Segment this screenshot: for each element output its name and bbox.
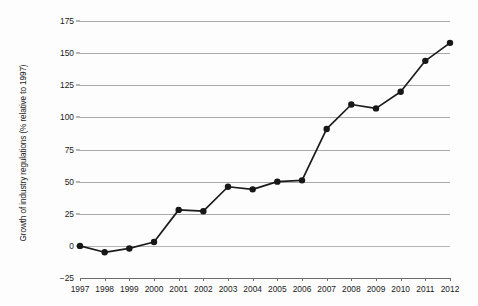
x-tick-label-2007: 2007 — [317, 284, 336, 294]
data-point-2003 — [225, 184, 231, 190]
x-tick-label-2006: 2006 — [293, 284, 312, 294]
x-tick-mark-1997 — [80, 278, 81, 281]
data-point-1997 — [77, 243, 83, 249]
x-tick-mark-2005 — [277, 278, 278, 281]
x-tick-mark-1998 — [105, 278, 106, 281]
x-tick-mark-2010 — [401, 278, 402, 281]
x-tick-label-2010: 2010 — [391, 284, 410, 294]
data-point-1999 — [126, 245, 132, 251]
series-line — [80, 43, 450, 252]
x-tick-mark-2012 — [450, 278, 451, 281]
data-point-2012 — [447, 40, 453, 46]
data-point-2009 — [373, 105, 379, 111]
data-point-2005 — [274, 178, 280, 184]
data-point-2002 — [200, 208, 206, 214]
data-point-2001 — [175, 207, 181, 213]
x-tick-label-2009: 2009 — [367, 284, 386, 294]
x-tick-mark-2004 — [253, 278, 254, 281]
x-tick-label-2005: 2005 — [268, 284, 287, 294]
x-tick-mark-2000 — [154, 278, 155, 281]
data-point-2010 — [397, 88, 403, 94]
data-point-2008 — [348, 101, 354, 107]
x-tick-label-1999: 1999 — [120, 284, 139, 294]
series-layer — [0, 0, 478, 306]
x-tick-mark-2008 — [351, 278, 352, 281]
x-tick-mark-2011 — [425, 278, 426, 281]
x-tick-mark-2002 — [203, 278, 204, 281]
x-tick-label-2000: 2000 — [145, 284, 164, 294]
x-tick-mark-2006 — [302, 278, 303, 281]
x-tick-mark-2009 — [376, 278, 377, 281]
x-tick-mark-2007 — [327, 278, 328, 281]
x-tick-label-2012: 2012 — [441, 284, 460, 294]
line-chart: Growth of industry regulations (% relati… — [0, 0, 478, 306]
data-point-2006 — [299, 177, 305, 183]
data-point-1998 — [101, 249, 107, 255]
data-point-2004 — [249, 186, 255, 192]
x-tick-label-1998: 1998 — [95, 284, 114, 294]
data-point-2011 — [422, 58, 428, 64]
data-point-2007 — [323, 126, 329, 132]
x-tick-label-2011: 2011 — [416, 284, 434, 294]
x-tick-label-2008: 2008 — [342, 284, 361, 294]
series-markers — [77, 40, 453, 256]
x-tick-mark-1999 — [129, 278, 130, 281]
data-point-2000 — [151, 239, 157, 245]
x-tick-label-2002: 2002 — [194, 284, 213, 294]
x-tick-label-2001: 2001 — [169, 284, 188, 294]
x-tick-label-1997: 1997 — [71, 284, 90, 294]
x-tick-mark-2001 — [179, 278, 180, 281]
x-tick-label-2004: 2004 — [243, 284, 262, 294]
x-tick-mark-2003 — [228, 278, 229, 281]
x-tick-label-2003: 2003 — [219, 284, 238, 294]
